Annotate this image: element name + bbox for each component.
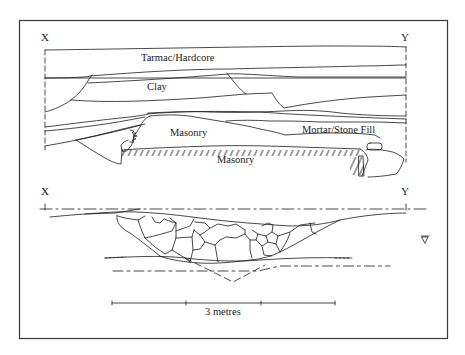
diagram-linework	[0, 0, 465, 355]
section-diagram: X Y Tarmac/Hardcore Clay Masonry Mortar/…	[0, 0, 465, 355]
tarmac-top-line	[45, 46, 406, 50]
upper-label-x: X	[41, 32, 49, 43]
rubble-stones	[118, 216, 316, 262]
rubble-outline	[117, 215, 340, 263]
lower-label-y: Y	[401, 186, 409, 197]
ground-surface	[50, 212, 406, 226]
layer-label-clay: Clay	[147, 82, 167, 93]
lower-label-x: X	[41, 186, 49, 197]
layer-label-mortar-fill: Mortar/Stone Fill	[302, 125, 375, 136]
water-level-icon	[422, 237, 428, 243]
layer-label-masonry-lower: Masonry	[217, 155, 254, 166]
layer-label-tarmac: Tarmac/Hardcore	[141, 53, 214, 64]
figure-frame	[20, 21, 448, 339]
tarmac-bottom-line	[45, 65, 406, 78]
scale-bar	[112, 301, 335, 305]
masonry-lower-top	[122, 146, 360, 150]
upper-label-y: Y	[401, 32, 409, 43]
layer-label-masonry-upper: Masonry	[170, 128, 207, 139]
scale-bar-label: 3 metres	[205, 307, 241, 318]
cut-profile	[185, 258, 265, 282]
